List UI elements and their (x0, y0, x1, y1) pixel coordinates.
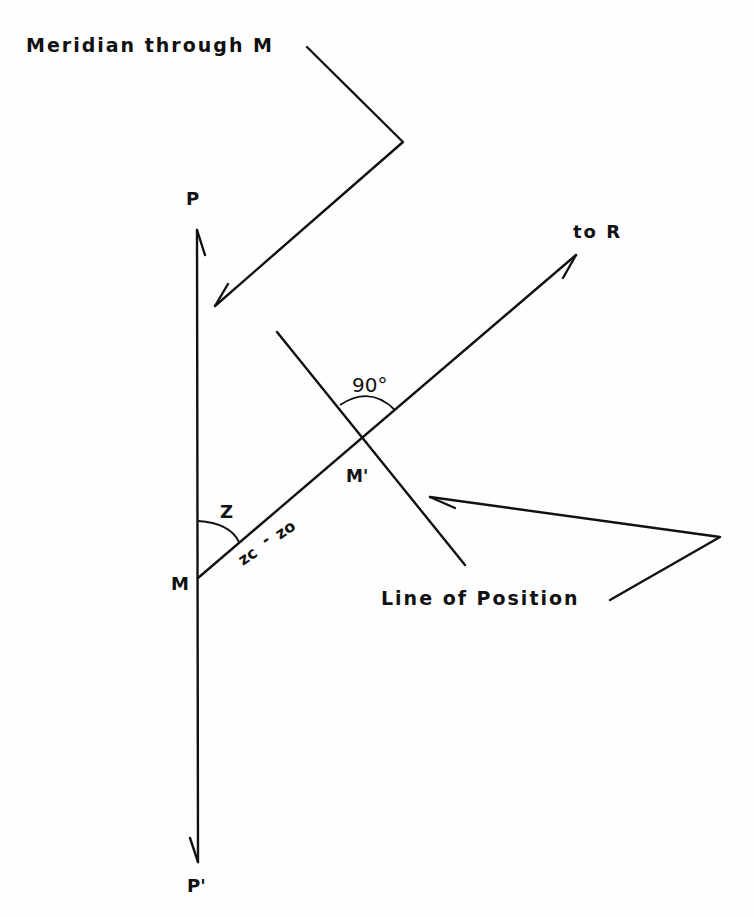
z-label: Z (220, 501, 233, 522)
m-label: M (171, 573, 189, 594)
z-angle-arc (198, 521, 239, 542)
z0-label: zo (271, 516, 299, 543)
angle-90-label: 90° (352, 373, 387, 397)
meridian-label: Meridian through M (26, 34, 274, 56)
line-to-r (198, 255, 576, 578)
m-prime-label: M' (346, 466, 368, 486)
minus-label: - (257, 530, 273, 549)
line-of-position (277, 332, 465, 565)
meridian-pointer (215, 47, 403, 306)
right-angle-arc (340, 396, 395, 410)
meridian-line (197, 230, 198, 862)
lop-pointer (430, 497, 720, 600)
zc-label: zc (234, 543, 260, 569)
to-r-label: to R (573, 221, 622, 242)
arrowhead-to-r (563, 255, 576, 278)
p-prime-label: P' (187, 875, 206, 896)
diagram-svg: Meridian through M P P' M M' to R 90° Z … (0, 0, 754, 917)
line-of-position-label: Line of Position (381, 587, 580, 609)
p-label: P (186, 188, 199, 209)
diagram-canvas: Meridian through M P P' M M' to R 90° Z … (0, 0, 754, 917)
